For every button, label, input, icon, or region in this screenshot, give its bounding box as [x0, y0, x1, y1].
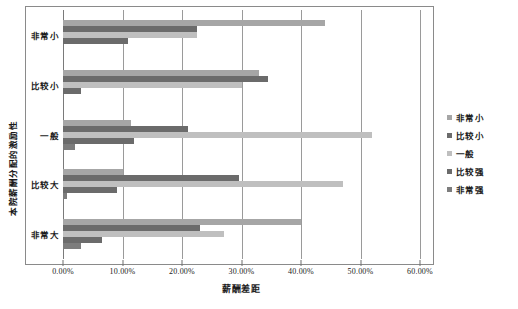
y-axis-label-比较大: 比较大	[1, 178, 59, 190]
y-axis-category-labels: 非常小比较小一般比较大非常大	[0, 10, 63, 259]
x-tick-label-0.00%: 0.00%	[52, 267, 74, 276]
x-tick-label-60.00%: 60.00%	[407, 267, 433, 276]
legend-label-非常强: 非常强	[456, 183, 484, 195]
bar-group-比较大	[63, 169, 420, 199]
legend-item-一般[interactable]: 一般	[447, 144, 513, 162]
legend-swatch-icon-比较强	[447, 169, 452, 174]
bar-非常大-非常强	[63, 243, 81, 249]
bars-layer	[63, 10, 420, 259]
bar-一般-非常强	[63, 144, 75, 150]
chart-legend: 非常小比较小一般比较强非常强	[447, 108, 513, 198]
y-axis-label-一般: 一般	[1, 129, 59, 141]
legend-swatch-icon-非常强	[447, 187, 452, 192]
x-tickmark-50.00%	[360, 260, 361, 266]
legend-label-非常小: 非常小	[456, 111, 484, 123]
bar-非常小-比较强	[63, 38, 128, 44]
bar-group-比较小	[63, 70, 420, 100]
gridline-60.00%	[420, 10, 421, 259]
bar-group-非常大	[63, 219, 420, 249]
x-tickmark-0.00%	[63, 260, 64, 266]
x-tickmark-30.00%	[241, 260, 242, 266]
legend-label-比较强: 比较强	[456, 165, 484, 177]
plot-area	[63, 10, 420, 259]
legend-item-比较小[interactable]: 比较小	[447, 126, 513, 144]
x-tickmark-40.00%	[301, 260, 302, 266]
legend-item-非常小[interactable]: 非常小	[447, 108, 513, 126]
legend-label-比较小: 比较小	[456, 129, 484, 141]
x-tick-label-30.00%: 30.00%	[229, 267, 255, 276]
x-tick-label-20.00%: 20.00%	[169, 267, 195, 276]
x-tickmark-60.00%	[420, 260, 421, 266]
legend-item-非常强[interactable]: 非常强	[447, 180, 513, 198]
y-axis-label-比较小: 比较小	[1, 79, 59, 91]
bar-比较大-非常强	[63, 193, 67, 199]
x-tick-label-40.00%: 40.00%	[288, 267, 314, 276]
y-axis-label-非常大: 非常大	[1, 228, 59, 240]
x-axis-tick-labels: 0.00%10.00%20.00%30.00%40.00%50.00%60.00…	[63, 267, 420, 283]
chart-container: 本院薪酬分配的激励性 非常小比较小一般比较大非常大 0.00%10.00%20.…	[0, 0, 518, 309]
bar-比较小-比较强	[63, 88, 81, 94]
bar-比较小-一般	[63, 82, 242, 88]
x-tick-label-50.00%: 50.00%	[348, 267, 374, 276]
legend-swatch-icon-比较小	[447, 133, 452, 138]
bar-group-一般	[63, 120, 420, 150]
x-tickmark-20.00%	[182, 260, 183, 266]
x-tickmark-10.00%	[122, 260, 123, 266]
y-axis-label-非常小: 非常小	[1, 29, 59, 41]
legend-item-比较强[interactable]: 比较强	[447, 162, 513, 180]
bar-group-非常小	[63, 20, 420, 50]
bar-比较大-比较强	[63, 187, 117, 193]
x-axis-title: 薪酬差距	[63, 282, 420, 295]
legend-swatch-icon-非常小	[447, 115, 452, 120]
x-tick-label-10.00%: 10.00%	[110, 267, 136, 276]
legend-label-一般: 一般	[456, 147, 475, 159]
legend-swatch-icon-一般	[447, 151, 452, 156]
